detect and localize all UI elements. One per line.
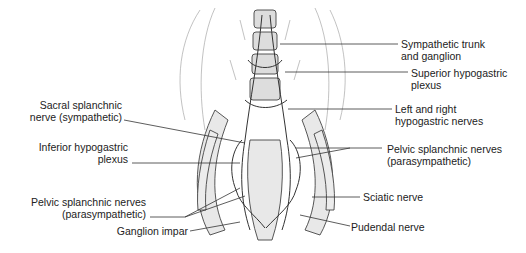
label-line2: and ganglion [401, 50, 485, 62]
label-line1: Pelvic splanchnic nerves [387, 143, 502, 155]
label-line1: Ganglion impar [117, 225, 188, 237]
label-sciatic-nerve: Sciatic nerve [363, 191, 423, 203]
label-line1: Sympathetic trunk [401, 38, 485, 50]
label-sacral-splanchnic: Sacral splanchnic nerve (sympathetic) [30, 99, 122, 123]
label-pudendal-nerve: Pudendal nerve [351, 221, 425, 233]
label-inferior-hypogastric-plexus: Inferior hypogastric plexus [39, 141, 128, 165]
label-pelvic-splanchnic-right: Pelvic splanchnic nerves (parasympatheti… [387, 143, 502, 167]
label-line1: Pudendal nerve [351, 221, 425, 233]
label-line1: Left and right [395, 103, 483, 115]
label-line2: plexus [39, 153, 128, 165]
label-pelvic-splanchnic-left: Pelvic splanchnic nerves (parasympatheti… [31, 196, 146, 220]
label-line2: hypogastric nerves [395, 115, 483, 127]
label-line2: (parasympathetic) [387, 155, 502, 167]
label-line1: Pelvic splanchnic nerves [31, 196, 146, 208]
label-line2: (parasympathetic) [31, 208, 146, 220]
label-line2: plexus [411, 79, 507, 91]
label-superior-hypogastric-plexus: Superior hypogastric plexus [411, 67, 507, 91]
label-line2: nerve (sympathetic) [30, 111, 122, 123]
label-line1: Sciatic nerve [363, 191, 423, 203]
label-sympathetic-trunk: Sympathetic trunk and ganglion [401, 38, 485, 62]
label-hypogastric-nerves: Left and right hypogastric nerves [395, 103, 483, 127]
label-line1: Superior hypogastric [411, 67, 507, 79]
label-ganglion-impar: Ganglion impar [117, 225, 188, 237]
label-line1: Sacral splanchnic [30, 99, 122, 111]
label-line1: Inferior hypogastric [39, 141, 128, 153]
